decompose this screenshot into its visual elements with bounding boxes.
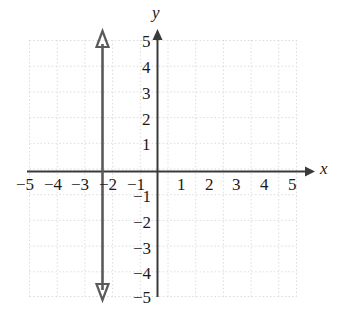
plotted-line-x-equals-minus-2 — [97, 31, 109, 300]
y-tick-label--3: −3 — [133, 240, 151, 257]
x-tick-label--4: −4 — [44, 176, 62, 193]
x-tick-label-4: 4 — [260, 176, 269, 193]
x-tick-label--2: −2 — [99, 176, 117, 193]
y-tick-label--5: −5 — [133, 289, 151, 306]
grid-horizontal-lines — [30, 41, 297, 297]
x-axis-label: x — [320, 160, 328, 177]
x-tick-label-1: 1 — [177, 176, 186, 193]
x-tick-label-3: 3 — [232, 176, 241, 193]
x-axis-arrow-icon — [305, 167, 315, 177]
y-tick-label-4: 4 — [142, 59, 151, 76]
coordinate-plane-graph: −5 −4 −3 −2 −1 1 2 3 4 5 5 4 3 2 1 −1 −2… — [0, 0, 339, 311]
y-tick-label--1: −1 — [133, 188, 151, 205]
x-tick-label-5: 5 — [288, 176, 297, 193]
y-axis-label: y — [152, 4, 160, 21]
x-tick-label-2: 2 — [205, 176, 214, 193]
y-tick-label--4: −4 — [133, 265, 151, 282]
y-tick-label--2: −2 — [133, 214, 151, 231]
y-tick-label-3: 3 — [142, 85, 151, 102]
y-tick-label-1: 1 — [142, 136, 151, 153]
x-tick-label--3: −3 — [71, 176, 89, 193]
y-tick-label-2: 2 — [142, 111, 151, 128]
y-axis-arrow-icon — [153, 29, 163, 40]
x-tick-label--5: −5 — [16, 176, 34, 193]
y-axis — [153, 29, 163, 297]
plot-canvas — [0, 0, 339, 311]
y-tick-label-5: 5 — [142, 33, 151, 50]
